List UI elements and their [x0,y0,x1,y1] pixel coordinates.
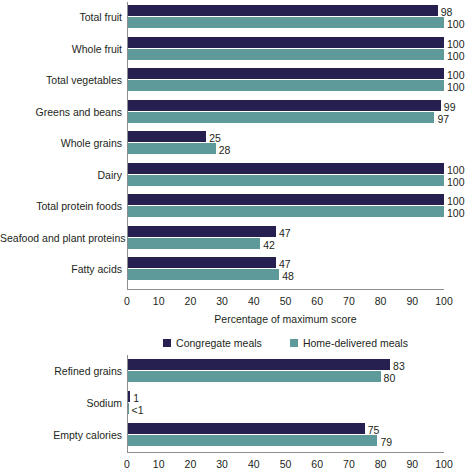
x-tick-label: 60 [302,459,332,470]
x-tick-label: 20 [175,459,205,470]
x-tick-label: 90 [397,459,427,470]
x-tick-label: 40 [239,296,269,307]
category-label: Fatty acids [0,264,122,275]
x-tick-label: 80 [366,459,396,470]
legend-swatch-icon-congregate [163,339,171,347]
bar-value-label: 83 [393,361,405,372]
category-label: Sodium [0,398,122,409]
category-label: Seafood and plant proteins [0,233,122,244]
bar [127,238,260,249]
top-chart-x-axis [127,289,444,290]
bar-value-label: 100 [447,196,465,207]
bar-value-label: 100 [447,70,465,81]
x-tick-label: 0 [112,296,142,307]
bar [127,435,377,446]
x-tick-label: 0 [112,459,142,470]
bar-value-label: 100 [447,19,465,30]
top-chart-x-axis-title: Percentage of maximum score [127,314,444,325]
bottom-chart-y-axis [127,355,128,452]
bar [127,143,216,154]
bar [127,68,444,79]
bar [127,226,276,237]
x-tick-label: 50 [271,459,301,470]
x-tick-label: 40 [239,459,269,470]
x-tick-label: 70 [334,459,364,470]
bar-value-label: 100 [447,51,465,62]
bar-value-label: 42 [263,240,275,251]
bar-value-label: 99 [444,102,456,113]
bar [127,269,279,280]
chart-figure: Total fruitWhole fruitTotal vegetablesGr… [0,0,473,473]
x-tick-label: 70 [334,296,364,307]
bar [127,206,444,217]
legend-item-home-delivered-meals: Home-delivered meals [290,338,408,349]
bar-value-label: 100 [447,208,465,219]
bar [127,371,381,382]
bar [127,49,444,60]
x-tick-label: 30 [207,459,237,470]
bar-value-label: 80 [384,373,396,384]
bar [127,37,444,48]
bar-value-label: 79 [380,437,392,448]
top-chart-y-axis [127,2,128,289]
x-tick-label: 20 [175,296,205,307]
bar-value-label: 47 [279,259,291,270]
legend-item-congregate-meals: Congregate meals [163,338,262,349]
x-tick-label: 30 [207,296,237,307]
bottom-chart-x-axis [127,452,444,453]
bar [127,175,444,186]
bar-value-label: 100 [447,39,465,50]
bar [127,112,434,123]
bar-value-label: 28 [219,145,231,156]
legend-label-congregate: Congregate meals [176,338,262,349]
category-label: Total protein foods [0,201,122,212]
bar-value-label: 47 [279,228,291,239]
x-tick-label: 60 [302,296,332,307]
bar [127,359,390,370]
x-tick-label: 80 [366,296,396,307]
bar [127,100,441,111]
x-tick-label: 50 [271,296,301,307]
bottom-bar-chart: Refined grainsSodiumEmpty calories 83801… [0,355,473,473]
category-label: Empty calories [0,430,122,441]
category-label: Refined grains [0,366,122,377]
x-tick-label: 100 [429,459,459,470]
chart-legend: Congregate meals Home-delivered meals [127,338,444,349]
bar-value-label: 98 [441,7,453,18]
category-label: Whole grains [0,138,122,149]
top-bar-chart: Total fruitWhole fruitTotal vegetablesGr… [0,0,473,330]
x-tick-label: 100 [429,296,459,307]
bar-value-label: 97 [437,114,449,125]
bar [127,131,206,142]
bar-value-label: 100 [447,82,465,93]
legend-label-home-delivered: Home-delivered meals [303,338,408,349]
bar [127,80,444,91]
bar-value-label: 48 [282,271,294,282]
bar-value-label: 25 [209,133,221,144]
bar-value-label: 1 [133,393,139,404]
bar [127,17,444,28]
category-label: Total vegetables [0,75,122,86]
bar [127,5,438,16]
bar-value-label: <1 [132,405,144,416]
category-label: Whole fruit [0,44,122,55]
x-tick-label: 10 [144,296,174,307]
x-tick-label: 90 [397,296,427,307]
category-label: Dairy [0,170,122,181]
bar-value-label: 75 [368,425,380,436]
bar-value-label: 100 [447,165,465,176]
bar [127,194,444,205]
bar [127,257,276,268]
bar [127,423,365,434]
bar [127,163,444,174]
category-label: Total fruit [0,12,122,23]
bar-value-label: 100 [447,177,465,188]
category-label: Greens and beans [0,107,122,118]
x-tick-label: 10 [144,459,174,470]
legend-swatch-icon-home-delivered [290,339,298,347]
